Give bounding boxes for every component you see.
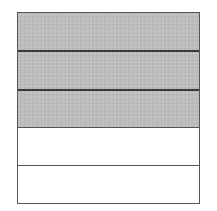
strip-2-shaded: [18, 50, 199, 89]
strip-5-empty: [18, 165, 199, 203]
strip-3-shaded: [18, 89, 199, 128]
strip-1-shaded: [18, 13, 199, 50]
fraction-rectangle: [17, 12, 200, 204]
strip-4-empty: [18, 127, 199, 165]
